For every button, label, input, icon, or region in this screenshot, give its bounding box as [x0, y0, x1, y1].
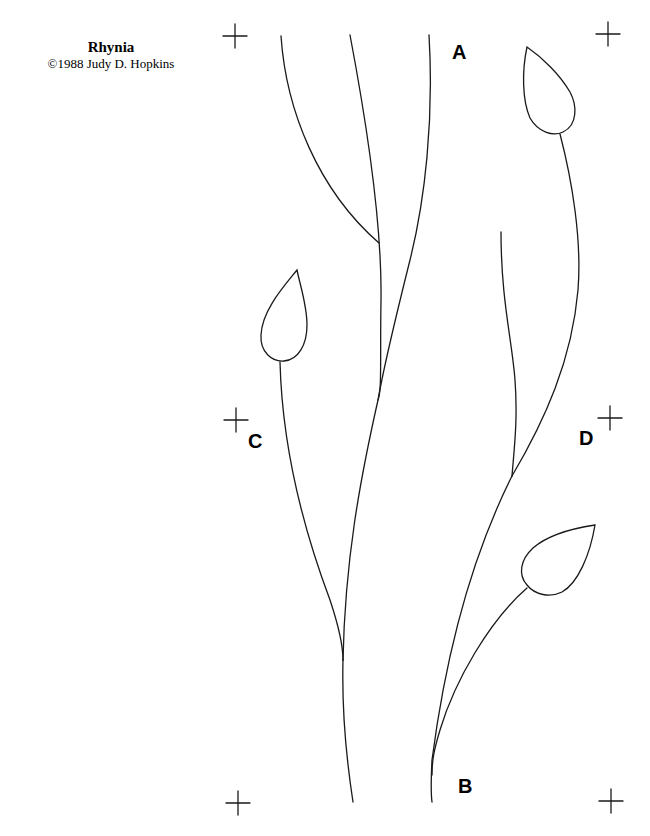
- crosshair-icon: [596, 22, 620, 46]
- crosshair-icon: [224, 408, 248, 432]
- bud-lower-right: [521, 525, 595, 595]
- registration-marks: [223, 22, 623, 815]
- stem-right-upper: [378, 35, 430, 400]
- bud-top-right: [524, 47, 575, 134]
- label-d: D: [579, 428, 593, 448]
- stem-lower-central: [343, 660, 353, 802]
- stem-central: [343, 35, 381, 660]
- crosshair-icon: [226, 791, 250, 815]
- label-b: B: [458, 776, 472, 796]
- stem-b-long: [431, 476, 512, 802]
- crosshair-icon: [599, 789, 623, 813]
- label-a: A: [452, 42, 466, 62]
- crosshair-icon: [223, 24, 247, 48]
- stem-d-wavy: [501, 232, 516, 476]
- quilting-pattern-drawing: [0, 0, 650, 836]
- bud-c: [261, 270, 307, 361]
- stem-c-bud: [280, 362, 343, 660]
- label-c: C: [248, 431, 262, 451]
- crosshair-icon: [598, 406, 622, 430]
- stem-curve-upper-left: [281, 36, 379, 243]
- stem-lower-right-bud: [432, 588, 527, 775]
- stem-d-main: [512, 134, 579, 476]
